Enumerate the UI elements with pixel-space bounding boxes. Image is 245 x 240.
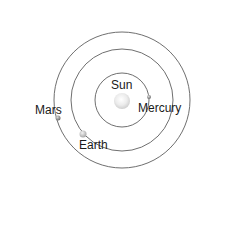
earth-label: Earth [79,139,108,151]
mercury-icon [147,95,151,99]
earth-icon [80,131,87,138]
sun-icon [114,93,130,109]
mars-label: Mars [35,104,62,116]
sun-label: Sun [111,79,132,91]
mercury-label: Mercury [138,102,181,114]
